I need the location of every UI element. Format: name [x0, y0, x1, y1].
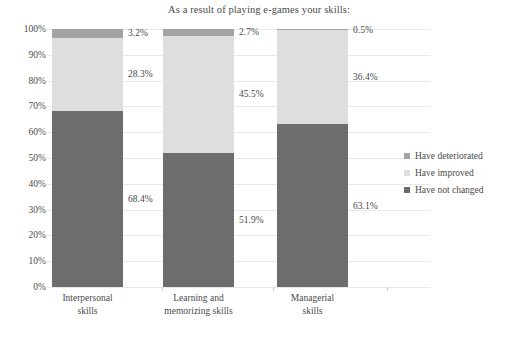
bar-segment[interactable] [277, 29, 348, 30]
bar-segment[interactable] [277, 124, 348, 287]
x-axis-tick-mark [162, 287, 163, 291]
y-axis-tick-label: 60% [6, 127, 46, 137]
bar-segment[interactable] [163, 153, 234, 287]
bar-segment[interactable] [52, 111, 123, 287]
legend-label: Have improved [415, 168, 474, 178]
data-label: 0.5% [353, 25, 373, 35]
data-label: 51.9% [239, 215, 264, 225]
x-axis-category-label: Learning andmemorizing skills [133, 292, 264, 317]
y-axis-tick-label: 80% [6, 76, 46, 86]
chart-legend: Have deterioratedHave improvedHave not c… [404, 148, 484, 199]
legend-item[interactable]: Have not changed [404, 182, 484, 197]
x-axis-category-label-line: Learning and [133, 292, 264, 305]
y-axis-tick-label: 70% [6, 101, 46, 111]
data-label: 68.4% [128, 194, 153, 204]
data-label: 36.4% [353, 72, 378, 82]
y-axis-tick-label: 100% [6, 24, 46, 34]
legend-item[interactable]: Have improved [404, 165, 484, 180]
y-axis-tick-label: 40% [6, 179, 46, 189]
legend-swatch-icon [404, 153, 410, 159]
bar-segment[interactable] [277, 30, 348, 124]
legend-item[interactable]: Have deteriorated [404, 148, 484, 163]
y-axis: 0%10%20%30%40%50%60%70%80%90%100% [0, 0, 46, 337]
chart-title: As a result of playing e-games your skil… [0, 4, 518, 15]
y-axis-tick-label: 50% [6, 153, 46, 163]
x-axis-category-label: Managerialskills [247, 292, 378, 317]
data-label: 63.1% [353, 201, 378, 211]
data-label: 45.5% [239, 89, 264, 99]
bar-segment[interactable] [52, 29, 123, 37]
data-label: 3.2% [128, 28, 148, 38]
bar-segment[interactable] [52, 38, 123, 111]
bar-segment[interactable] [163, 36, 234, 153]
plot-area [46, 29, 430, 287]
x-axis-category-label-line: skills [247, 305, 378, 318]
legend-swatch-icon [404, 187, 410, 193]
x-axis-tick-mark [387, 287, 388, 291]
legend-label: Have deteriorated [415, 151, 483, 161]
legend-label: Have not changed [415, 185, 484, 195]
stacked-bar-chart: As a result of playing e-games your skil… [0, 0, 518, 337]
legend-swatch-icon [404, 170, 410, 176]
x-axis-category-label-line: Managerial [247, 292, 378, 305]
bar-column[interactable] [52, 29, 123, 287]
y-axis-tick-label: 30% [6, 205, 46, 215]
gridline [46, 287, 430, 288]
bar-column[interactable] [163, 29, 234, 287]
bar-segment[interactable] [163, 29, 234, 36]
x-axis-category-label-line: memorizing skills [133, 305, 264, 318]
data-label: 28.3% [128, 69, 153, 79]
data-label: 2.7% [239, 27, 259, 37]
y-axis-tick-label: 90% [6, 50, 46, 60]
y-axis-tick-label: 10% [6, 256, 46, 266]
y-axis-tick-label: 0% [6, 282, 46, 292]
x-axis-tick-mark [273, 287, 274, 291]
bar-column[interactable] [277, 29, 348, 287]
y-axis-tick-label: 20% [6, 230, 46, 240]
